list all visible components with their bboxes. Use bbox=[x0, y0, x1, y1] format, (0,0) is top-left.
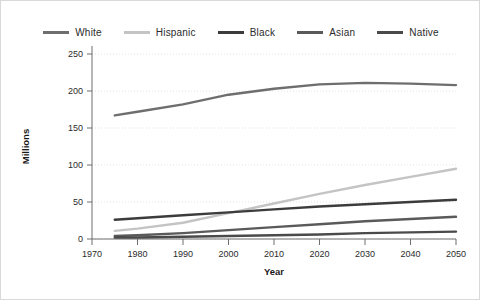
series-line-hispanic bbox=[115, 169, 456, 231]
y-tick-label: 250 bbox=[68, 49, 83, 59]
x-tick-label: 1980 bbox=[127, 249, 147, 259]
y-tick-label: 100 bbox=[68, 160, 83, 170]
y-tick-label: 200 bbox=[68, 86, 83, 96]
chart-plot-area: 0501001502002501970198019902000201020202… bbox=[1, 1, 480, 300]
y-tick-label: 150 bbox=[68, 123, 83, 133]
x-tick-label: 2000 bbox=[218, 249, 238, 259]
x-tick-label: 1990 bbox=[173, 249, 193, 259]
series-line-white bbox=[115, 83, 456, 116]
chart-page: WhiteHispanicBlackAsianNative 0501001502… bbox=[0, 0, 480, 300]
x-tick-label: 2010 bbox=[264, 249, 284, 259]
y-tick-label: 50 bbox=[73, 197, 83, 207]
x-tick-label: 2040 bbox=[400, 249, 420, 259]
y-axis-title: Millions bbox=[20, 129, 31, 164]
x-tick-label: 2020 bbox=[309, 249, 329, 259]
x-axis-title: Year bbox=[264, 266, 284, 277]
line-chart-svg: 0501001502002501970198019902000201020202… bbox=[1, 1, 480, 300]
x-tick-label: 2050 bbox=[446, 249, 466, 259]
x-tick-label: 1970 bbox=[82, 249, 102, 259]
x-tick-label: 2030 bbox=[355, 249, 375, 259]
series-line-black bbox=[115, 200, 456, 220]
y-tick-label: 0 bbox=[78, 234, 83, 244]
